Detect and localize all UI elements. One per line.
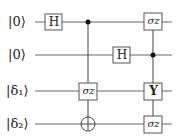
qubit-label-0: |0⟩ bbox=[8, 15, 26, 28]
quantum-circuit-diagram: |0⟩ |0⟩ |δ₁⟩ |δ₂⟩ H σz H σz Y σz bbox=[0, 0, 191, 137]
qubit-label-3: |δ₂⟩ bbox=[6, 117, 29, 130]
cnot-target-icon bbox=[81, 117, 95, 131]
gate-label-sigmaz-q3: σz bbox=[144, 119, 163, 129]
gate-label-sigmaz-q2: σz bbox=[79, 86, 98, 96]
qubit-label-1: |0⟩ bbox=[8, 48, 26, 61]
control-dot-q0 bbox=[86, 20, 91, 25]
gate-label-h-q1: H bbox=[113, 49, 131, 61]
qubit-label-2: |δ₁⟩ bbox=[6, 84, 29, 97]
gate-label-y-q2: Y bbox=[144, 85, 163, 97]
gate-label-sigmaz-q0: σz bbox=[144, 16, 163, 26]
gate-label-h-q0: H bbox=[45, 16, 63, 28]
control-dot-q1 bbox=[151, 53, 156, 58]
